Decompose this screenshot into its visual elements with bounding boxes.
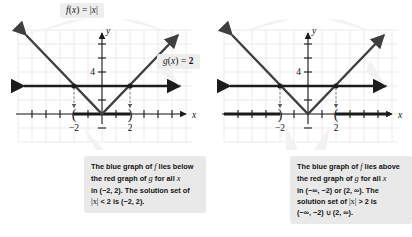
intersection-point-left xyxy=(71,83,76,88)
y-axis-label: y xyxy=(105,26,111,36)
y-tick-label-4: 4 xyxy=(296,67,301,77)
caption-left-line-1: The blue graph of f lies below xyxy=(91,161,199,173)
caption-right-line-1: The blue graph of f lies above xyxy=(297,161,405,173)
caption-left: The blue graph of f lies below the red g… xyxy=(84,156,206,213)
caption-left-line-3: in (−2, 2). The solution set of xyxy=(91,186,199,197)
callout-leaders xyxy=(232,19,386,150)
intersection-point-right xyxy=(333,83,338,88)
label-g-left: g(x) = 2 xyxy=(157,54,200,69)
x-tick-label-pos2: 2 xyxy=(128,123,133,133)
interval-bracket-open: ( xyxy=(334,107,339,123)
figure-container: ( ) −2 2 4 x y f(x) = |x| xyxy=(0,0,412,237)
y-axis-label: y xyxy=(311,26,317,36)
y-tick-label-4: 4 xyxy=(90,67,95,77)
intersection-point-left xyxy=(277,83,282,88)
interval-bracket-open: ( xyxy=(72,107,77,123)
x-axis-label: x xyxy=(191,110,197,120)
x-axis-label: x xyxy=(397,110,403,120)
caption-left-line-2: the red graph of g for all x xyxy=(91,173,199,185)
caption-right-line-5: (−∞, −2) ∪ (2, ∞). xyxy=(297,208,405,219)
label-f-left: f(x) = |x| xyxy=(60,3,104,18)
intersection-point-right xyxy=(127,83,132,88)
callout-leaders xyxy=(26,19,180,150)
caption-right-line-3: in (−∞, −2) or (2, ∞). The xyxy=(297,186,405,197)
interval-bracket-close: ) xyxy=(278,107,283,123)
x-tick-label-neg2: −2 xyxy=(275,123,285,133)
x-tick-label-pos2: 2 xyxy=(334,123,339,133)
x-tick-label-neg2: −2 xyxy=(69,123,79,133)
caption-right-line-2: the red graph of g for all x xyxy=(297,173,405,185)
caption-right: The blue graph of f lies above the red g… xyxy=(290,156,412,224)
caption-right-line-4: solution set of |x| > 2 is xyxy=(297,196,405,208)
caption-left-line-4: |x| < 2 is (−2, 2). xyxy=(91,196,199,208)
interval-bracket-close: ) xyxy=(128,107,133,123)
